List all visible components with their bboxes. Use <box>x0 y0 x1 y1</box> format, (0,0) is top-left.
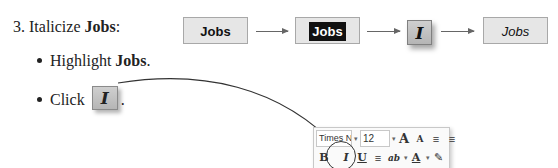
underline-button[interactable]: U <box>356 151 368 164</box>
chevron-down-icon[interactable]: ▾ <box>426 154 430 162</box>
chevron-down-icon[interactable]: ▾ <box>354 135 358 143</box>
format-painter-icon[interactable]: ✎ <box>432 151 444 164</box>
increase-indent-icon[interactable]: ≡ <box>446 133 458 145</box>
center-align-icon[interactable]: ≡ <box>372 152 384 164</box>
chevron-down-icon[interactable]: ▾ <box>404 154 408 162</box>
callout-curve <box>0 0 558 168</box>
shrink-font-button[interactable]: A <box>414 134 426 144</box>
highlight-color-button[interactable]: ab <box>388 153 400 163</box>
font-size-select[interactable]: 12 <box>360 130 390 147</box>
font-size-value: 12 <box>363 133 374 144</box>
decrease-indent-icon[interactable]: ≡ <box>430 133 442 145</box>
grow-font-button[interactable]: A <box>398 131 410 146</box>
font-color-button[interactable]: A <box>410 151 422 164</box>
callout-circle <box>326 141 356 168</box>
chevron-down-icon[interactable]: ▾ <box>392 135 396 143</box>
